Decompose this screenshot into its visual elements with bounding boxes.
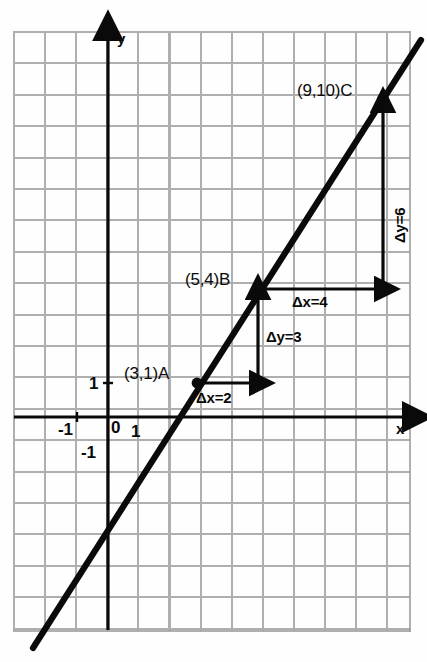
delta-y-ab-label: Δy=3	[266, 328, 301, 345]
point-c-dot	[377, 93, 389, 105]
x-axis-label: x	[396, 420, 404, 437]
y-axis-label: y	[117, 30, 125, 47]
graph-overlay	[0, 0, 427, 662]
point-b-label: (5,4)B	[185, 270, 230, 290]
x-tick-1: 1	[131, 422, 140, 442]
point-a-label: (3,1)A	[124, 364, 169, 384]
y-tick-1: 1	[89, 374, 98, 394]
point-b-dot	[252, 283, 264, 295]
point-c-label: (9,10)C	[297, 81, 352, 101]
x-tick-minus-1: -1	[58, 420, 73, 440]
plotted-line	[33, 40, 421, 648]
delta-x-bc-label: Δx=4	[292, 293, 327, 310]
delta-x-ab-label: Δx=2	[196, 389, 231, 406]
origin-tick-0: 0	[111, 418, 120, 438]
y-tick-minus-1: -1	[81, 443, 96, 463]
point-a-dot	[192, 378, 203, 389]
graph-figure: y x -1 0 1 1 -1 (3,1)A (5,4)B (9,10)C Δx…	[0, 0, 427, 662]
delta-y-bc-label: Δy=6	[391, 208, 408, 243]
